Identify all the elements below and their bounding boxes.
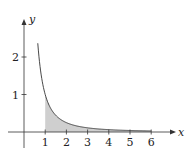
x-axis-label: x bbox=[178, 126, 185, 139]
x-tick-label: 1 bbox=[42, 136, 49, 149]
x-tick-label: 2 bbox=[63, 136, 70, 149]
y-axis-label: y bbox=[28, 13, 36, 26]
chart: 123456 12 x y bbox=[0, 0, 189, 154]
x-tick-label: 4 bbox=[105, 136, 112, 149]
y-tick-label: 1 bbox=[12, 89, 19, 102]
x-axis-arrow-icon bbox=[170, 130, 176, 135]
shaded-area bbox=[45, 95, 151, 133]
y-axis-arrow-icon bbox=[22, 19, 27, 25]
x-tick-label: 5 bbox=[127, 136, 134, 149]
x-tick-label: 3 bbox=[84, 136, 91, 149]
y-tick-label: 2 bbox=[12, 51, 19, 64]
x-tick-label: 6 bbox=[148, 136, 155, 149]
